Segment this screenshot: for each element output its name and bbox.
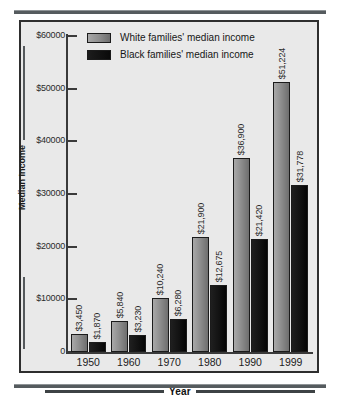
bar-white — [111, 321, 128, 352]
bottom-divider-rule — [14, 384, 326, 388]
bar-black — [129, 335, 146, 352]
top-divider-rule — [14, 10, 326, 14]
y-axis-tick-label: $30000 — [5, 188, 65, 198]
plot-area: $3,450$1,870$5,840$3,230$10,240$6,280$21… — [68, 36, 311, 352]
bar-black — [210, 285, 227, 352]
bar-value-label: $51,224 — [277, 48, 287, 79]
x-axis-tick-label: 1950 — [68, 356, 109, 368]
bar-group: $3,450$1,870 — [68, 36, 109, 352]
bar-value-label: $31,778 — [295, 151, 305, 182]
bar-group: $5,840$3,230 — [109, 36, 150, 352]
x-axis-tick-label: 1999 — [271, 356, 312, 368]
bar-value-label: $1,870 — [92, 313, 102, 339]
x-axis-line — [66, 352, 313, 354]
bar-white — [152, 298, 169, 352]
bar-value-label: $21,900 — [196, 203, 206, 234]
bar-black — [251, 239, 268, 352]
y-axis-tick-label: $10000 — [5, 293, 65, 303]
x-axis-tick-label: 1980 — [190, 356, 231, 368]
bar-white — [71, 334, 88, 352]
x-axis-tick-label: 1970 — [149, 356, 190, 368]
x-axis-title-rule-left — [45, 390, 164, 393]
chart-figure: White families' median income Black fami… — [0, 0, 340, 396]
bar-value-label: $6,280 — [173, 290, 183, 316]
y-axis-tick-label: $20000 — [5, 241, 65, 251]
bar-white — [233, 158, 250, 352]
y-axis-title: Median Income — [17, 145, 27, 210]
bar-value-label: $5,840 — [115, 292, 125, 318]
bar-group: $36,900$21,420 — [230, 36, 271, 352]
bar-value-label: $36,900 — [236, 124, 246, 155]
x-axis-tick-label: 1990 — [230, 356, 271, 368]
bar-value-label: $3,450 — [74, 305, 84, 331]
bar-white — [273, 82, 290, 352]
x-axis-title-rule-right — [196, 390, 315, 393]
y-axis-tick-label: $40000 — [5, 135, 65, 145]
y-axis-tick-label: 0 — [5, 346, 65, 356]
y-axis-title-rule-bottom — [23, 277, 25, 349]
y-axis-tick-label: $50000 — [5, 83, 65, 93]
y-axis-title-rule-top — [23, 46, 25, 140]
bar-group: $10,240$6,280 — [149, 36, 190, 352]
bar-value-label: $21,420 — [254, 205, 264, 236]
bar-black — [89, 342, 106, 352]
bar-value-label: $12,675 — [214, 251, 224, 282]
bar-value-label: $3,230 — [133, 306, 143, 332]
bar-group: $21,900$12,675 — [190, 36, 231, 352]
bar-white — [192, 237, 209, 352]
x-axis-tick-label: 1960 — [109, 356, 150, 368]
chart-panel: White families' median income Black fami… — [19, 20, 319, 373]
bar-black — [170, 319, 187, 352]
bar-black — [291, 185, 308, 352]
bar-value-label: $10,240 — [155, 264, 165, 295]
bar-group: $51,224$31,778 — [271, 36, 312, 352]
y-axis-tick-label: $60000 — [5, 30, 65, 40]
